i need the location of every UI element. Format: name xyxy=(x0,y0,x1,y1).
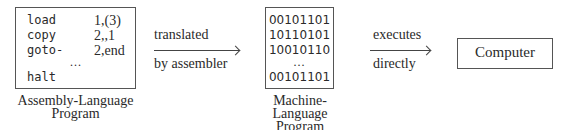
assembly-opcode: halt xyxy=(27,70,82,85)
assembly-operand: 2,end xyxy=(94,43,125,58)
arrow1-label-bottom: by assembler xyxy=(154,56,227,72)
assembly-operand: 2,,1 xyxy=(94,28,115,43)
machine-line: 00101101 xyxy=(266,13,333,28)
computer-box: Computer xyxy=(457,38,553,69)
execute-arrow-icon xyxy=(370,50,430,51)
assembly-opcode: copy xyxy=(27,28,82,43)
machine-caption: Machine-Language Program xyxy=(250,94,350,130)
assembly-operand: 1,(3) xyxy=(94,13,121,28)
computer-label: Computer xyxy=(475,44,535,61)
assembly-program-box: load 1,(3) copy 2,,1 goto- 2,end ... hal… xyxy=(15,7,136,89)
machine-ellipsis: ... xyxy=(266,55,333,70)
arrow2-label-bottom: directly xyxy=(373,56,416,72)
assembly-ellipsis: ... xyxy=(70,55,82,70)
arrow1-label-top: translated xyxy=(154,27,208,43)
assembly-caption: Assembly-Language Program xyxy=(8,94,143,120)
machine-program-box: 00101101 10110101 10010110 ... 00101101 xyxy=(265,7,334,89)
machine-caption-line1: Machine-Language xyxy=(250,94,350,120)
assembly-opcode: load xyxy=(27,13,82,28)
assembly-caption-line2: Program xyxy=(8,107,143,120)
translate-arrow-icon xyxy=(154,50,239,51)
machine-line: 10110101 xyxy=(266,28,333,43)
arrow2-label-top: executes xyxy=(373,27,421,43)
machine-caption-line2: Program xyxy=(250,120,350,130)
machine-line: 00101101 xyxy=(266,70,333,85)
